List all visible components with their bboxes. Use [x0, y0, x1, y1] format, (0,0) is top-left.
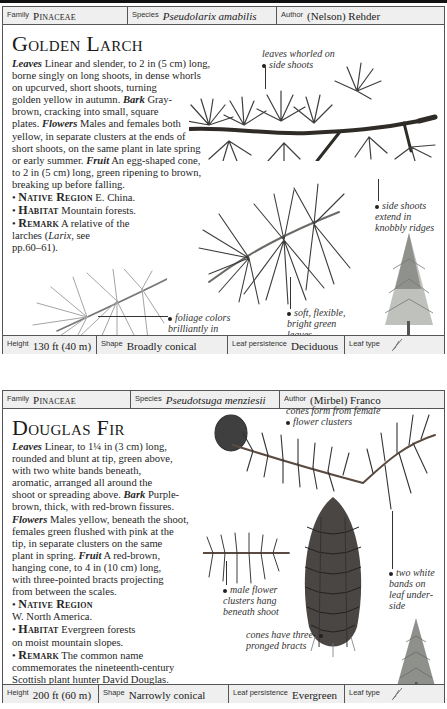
description-line: or early summer. Fruit An egg-shaped con…: [12, 155, 210, 167]
callout-dot: [319, 634, 323, 638]
species-label: Species: [132, 7, 159, 19]
height-value: 200 ft (60 m): [33, 689, 91, 701]
page-top-rule: [0, 0, 447, 3]
description-line: to 2 in (5 cm) long, green ripening to b…: [12, 167, 210, 179]
shape-label: Shape: [103, 685, 125, 697]
entry-golden-larch: Family Pinaceae Species Pseudolarix amab…: [2, 6, 445, 354]
species-description: Leaves Linear and slender, to 2 in (5 cm…: [12, 58, 210, 255]
height-label: Height: [7, 685, 29, 697]
needle-leaf-icon: [390, 687, 404, 701]
leaf-persistence-value: Deciduous: [291, 340, 338, 352]
family-cell: Family Pinaceae: [3, 7, 128, 24]
species-value: Pseudolarix amabilis: [163, 10, 257, 22]
callout-leader: [265, 67, 266, 89]
family-label: Family: [7, 391, 29, 403]
callout-leader: [290, 277, 291, 309]
leaf-type-cell: Leaf type: [345, 685, 444, 703]
callout-dot: [223, 589, 227, 593]
description-line: • Remark The common name: [12, 649, 189, 662]
callout-dot: [168, 317, 172, 321]
description-line: pp.60–61).: [12, 242, 210, 254]
leaf-type-label: Leaf type: [349, 336, 380, 348]
author-label: Author: [284, 391, 306, 403]
section-keyword: Habitat: [18, 203, 58, 217]
leaf-persistence-label: Leaf persistence: [233, 685, 288, 697]
description-line: yellow, in separate clusters at the ends…: [12, 131, 210, 143]
height-cell: Height 200 ft (60 m): [3, 685, 99, 703]
shape-cell: Shape Broadly conical: [97, 336, 228, 354]
leaf-type-cell: Leaf type: [345, 336, 444, 354]
larch-shoot-illustration: [189, 182, 361, 312]
author-value: (Nelson) Rehder: [307, 10, 380, 22]
species-title: Douglas Fir: [12, 415, 125, 441]
field-heading: Flowers: [42, 118, 77, 129]
description-line: commemorates the nineteenth-century: [12, 662, 189, 674]
callout-leader: [98, 316, 168, 317]
callout-dot: [286, 421, 290, 425]
family-label: Family: [7, 7, 29, 19]
description-line: plant in spring. Fruit A red-brown,: [12, 550, 189, 562]
description-line: with three-pointed bracts projecting: [12, 574, 189, 586]
height-value: 130 ft (40 m): [33, 340, 91, 352]
field-heading: Flowers: [12, 514, 47, 525]
callout-leader: [378, 179, 379, 201]
description-line: females green flushed with pink at the: [12, 526, 189, 538]
description-line: short shoots, on the same plant in late …: [12, 143, 210, 155]
section-keyword: Native Region: [18, 190, 92, 204]
leaf-persistence-cell: Leaf persistence Evergreen: [229, 685, 345, 703]
description-line: with two white bands beneath,: [12, 465, 189, 477]
description-line: • Native Region: [12, 598, 189, 611]
leaf-persistence-value: Evergreen: [292, 689, 337, 701]
male-flower-shoot-illustration: [203, 531, 293, 591]
description-line: brown, cracking into small, square: [12, 106, 210, 118]
entry-footer-strip: Height 130 ft (40 m) Shape Broadly conic…: [3, 335, 444, 354]
description-line: aromatic, arranged all around the: [12, 477, 189, 489]
entry-footer-strip: Height 200 ft (60 m) Shape Narrowly coni…: [3, 684, 444, 703]
description-line: tip, in separate clusters on the same: [12, 538, 189, 550]
field-heading: Fruit: [79, 550, 102, 561]
species-label: Species: [135, 391, 162, 403]
description-line: borne singly on long shoots, in dense wh…: [12, 70, 210, 82]
family-cell: Family Pinaceae: [3, 391, 131, 408]
italic-term: Larix: [48, 230, 71, 241]
field-heading: Bark: [124, 489, 146, 500]
leaf-persistence-label: Leaf persistence: [232, 336, 287, 348]
description-line: Leaves Linear, to 1¼ in (3 cm) long,: [12, 441, 189, 453]
description-line: brown, thick, with red-brown fissures.: [12, 501, 189, 513]
description-line: • Remark A relative of the: [12, 217, 210, 230]
field-heading: Fruit: [86, 155, 109, 166]
field-heading: Leaves: [12, 441, 42, 452]
callout-leader: [392, 511, 393, 569]
entry-douglas-fir: Family Pinaceae Species Pseudotsuga menz…: [2, 390, 445, 703]
needle-leaf-icon: [390, 338, 404, 352]
family-value: Pinaceae: [33, 394, 76, 406]
callout-cones-form: cones form from female flower clusters: [286, 405, 380, 427]
callout-leaves-whorled: leaves whorled on side shoots: [262, 48, 335, 70]
description-line: plates. Flowers Males and females both: [12, 118, 210, 130]
section-keyword: Habitat: [18, 622, 58, 636]
species-title: Golden Larch: [12, 31, 143, 57]
callout-three-pronged: cones have three- pronged bracts: [246, 629, 326, 651]
callout-side-shoots: side shoots extend in knobbly ridges: [375, 200, 434, 233]
callout-leader: [226, 561, 227, 585]
shape-cell: Shape Narrowly conical: [99, 685, 229, 703]
description-line: on upcurved, short shoots, turning: [12, 82, 210, 94]
family-value: Pinaceae: [33, 10, 76, 22]
description-line: shoot or spreading above. Bark Purple-: [12, 489, 189, 501]
section-keyword: Remark: [18, 216, 59, 230]
leaf-type-label: Leaf type: [349, 685, 380, 697]
species-cell: Species Pseudolarix amabilis: [128, 7, 277, 24]
callout-dot: [287, 312, 291, 316]
description-line: larches (Larix, see: [12, 230, 210, 242]
description-line: rounded and blunt at tip, green above,: [12, 453, 189, 465]
leaf-persistence-cell: Leaf persistence Deciduous: [228, 336, 345, 354]
species-description: Leaves Linear, to 1¼ in (3 cm) long,roun…: [12, 441, 189, 698]
callout-dot: [389, 572, 393, 576]
entry-header-strip: Family Pinaceae Species Pseudolarix amab…: [3, 7, 444, 25]
callout-two-white-bands: two white bands on leaf under- side: [389, 567, 435, 611]
callout-male-flower: male flower clusters hang beneath shoot: [223, 584, 279, 617]
height-cell: Height 130 ft (40 m): [3, 336, 97, 354]
shape-label: Shape: [101, 336, 123, 348]
shape-value: Narrowly conical: [129, 689, 206, 701]
description-line: hanging cone, to 4 in (10 cm) long,: [12, 562, 189, 574]
